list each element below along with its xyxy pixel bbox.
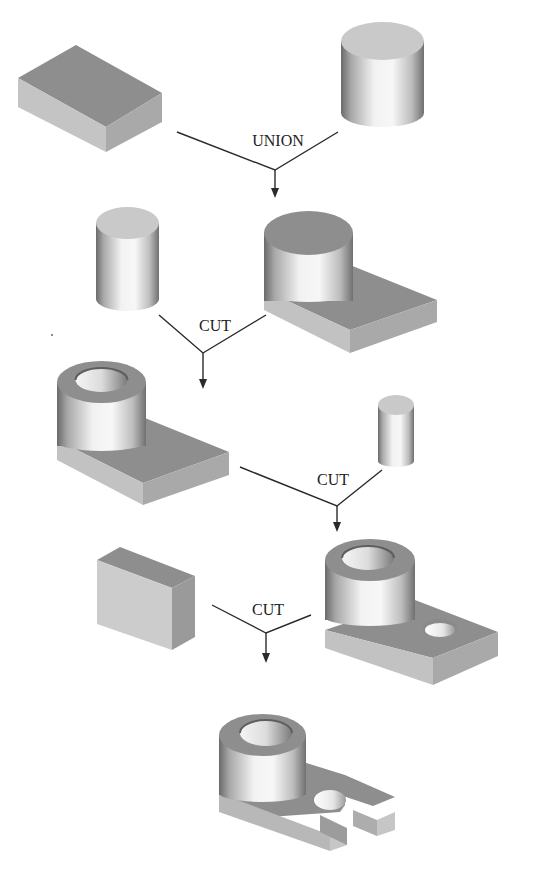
arrow-down-icon	[271, 188, 279, 198]
box-primitive-2	[97, 547, 195, 650]
cylinder-primitive-2	[96, 207, 159, 311]
cut-connector-3: CUT	[212, 601, 311, 663]
cylinder-primitive-1	[341, 22, 424, 127]
union-result	[264, 211, 437, 353]
cut-label-2: CUT	[317, 471, 349, 488]
final-result	[219, 714, 395, 851]
cut-label-1: CUT	[199, 317, 231, 334]
cylinder-primitive-small	[378, 395, 414, 467]
csg-diagram: UNION CUT	[0, 0, 536, 874]
cut-label-3: CUT	[252, 601, 284, 618]
union-connector: UNION	[177, 132, 338, 198]
arrow-down-icon	[199, 379, 207, 389]
arrow-down-icon	[333, 522, 341, 532]
union-label: UNION	[252, 132, 304, 149]
stray-dot	[51, 334, 53, 336]
cut-connector-1: CUT	[159, 315, 266, 389]
cut-connector-2: CUT	[240, 467, 382, 532]
arrow-down-icon	[262, 653, 270, 663]
box-primitive-1	[18, 45, 162, 152]
cut2-result	[325, 539, 498, 685]
